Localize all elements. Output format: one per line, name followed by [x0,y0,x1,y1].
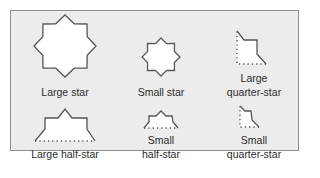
label-line: half-star [142,147,180,161]
label-large-quarter-star: Large quarter-star [227,71,281,99]
small-quarter-star-icon [240,106,259,127]
label-line: Small [227,133,281,147]
label-line: Large half-star [31,147,99,161]
large-quarter-star-icon [237,31,266,64]
label-small-quarter-star: Small quarter-star [227,133,281,161]
label-line: quarter-star [227,147,281,161]
small-star-icon [142,38,180,76]
label-line: Small star [138,85,185,99]
small-half-star-icon [144,111,178,128]
label-line: quarter-star [227,85,281,99]
label-large-half-star: Large half-star [31,147,99,161]
label-small-star: Small star [138,85,185,99]
label-line: Large star [41,85,88,99]
label-line: Small [142,133,180,147]
label-small-half-star: Small half-star [142,133,180,161]
label-line: Large [227,71,281,85]
label-large-star: Large star [41,85,88,99]
large-half-star-icon [35,109,95,141]
large-star-icon [34,15,96,77]
